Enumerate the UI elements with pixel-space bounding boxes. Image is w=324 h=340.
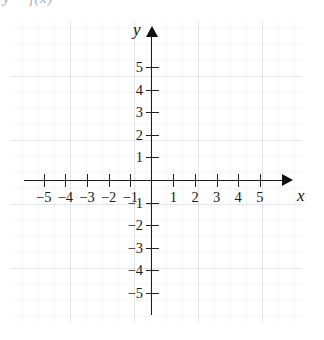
x-tick-label: 5 [248,189,272,206]
y-axis-label: y [133,20,141,40]
y-tick-label: 4 [117,82,143,99]
x-tick [173,174,174,187]
y-tick [146,112,159,113]
x-tick [44,174,45,187]
y-tick [146,135,159,136]
graph-figure: y = f(x) −5 −4 −3 −2 −1 1 2 3 4 5 5 4 3 … [0,0,324,340]
x-tick-label: 1 [161,189,185,206]
y-tick-label: −3 [117,240,143,257]
y-tick [146,67,159,68]
x-tick-label: 4 [226,189,250,206]
x-tick-label: −3 [75,189,99,206]
x-tick-label: −4 [53,189,77,206]
y-tick-label: −5 [117,285,143,302]
x-tick [260,174,261,187]
x-axis-line [24,180,287,181]
y-tick [146,248,159,249]
y-tick [146,157,159,158]
y-tick-label: 2 [117,127,143,144]
header-text: y = f(x) [3,0,53,7]
x-tick-label: 3 [205,189,229,206]
y-axis-arrow-icon [146,26,158,37]
y-tick [146,225,159,226]
y-tick [146,90,159,91]
y-axis-line [151,33,152,315]
x-tick [195,174,196,187]
x-tick [217,174,218,187]
x-tick-label: 2 [183,189,207,206]
x-tick [65,174,66,187]
y-tick [146,293,159,294]
y-tick-label: 3 [117,104,143,121]
y-tick-label: −4 [117,262,143,279]
x-axis-label: x [297,186,305,206]
y-tick [146,203,159,204]
x-tick-label: −5 [32,189,56,206]
y-tick-label: −2 [117,217,143,234]
y-tick-label: 5 [117,59,143,76]
x-tick [87,174,88,187]
y-tick-label: 1 [117,149,143,166]
x-axis-arrow-icon [282,174,293,186]
y-tick-label: −1 [117,195,143,212]
y-tick [146,270,159,271]
x-tick [238,174,239,187]
x-tick [109,174,110,187]
x-tick [130,174,131,187]
